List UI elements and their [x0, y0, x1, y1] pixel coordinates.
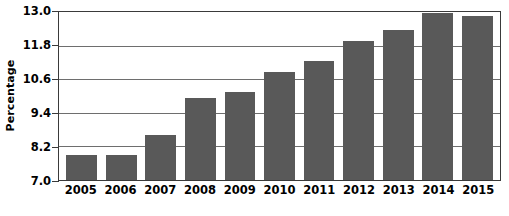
bar-slot	[181, 12, 221, 180]
bar	[185, 98, 216, 180]
y-axis-tick-label: 10.6	[23, 72, 51, 86]
x-axis-tick-label: 2013	[379, 183, 419, 197]
y-axis-tick-label: 13.0	[23, 4, 51, 18]
bar-slot	[339, 12, 379, 180]
bar	[106, 155, 137, 181]
x-axis-tick-labels: 2005200620072008200920102011201220132014…	[58, 183, 501, 205]
bar-slot	[220, 12, 260, 180]
x-axis-tick-label: 2006	[101, 183, 141, 197]
bar	[462, 16, 493, 180]
y-axis-tick-mark	[52, 181, 59, 182]
x-axis-tick-label: 2010	[260, 183, 300, 197]
bar-slot	[62, 12, 102, 180]
x-axis-tick-label: 2008	[180, 183, 220, 197]
bar-chart-figure: Percentage 13.011.810.69.48.27.0 2005200…	[0, 0, 509, 216]
x-axis-tick-label: 2005	[61, 183, 101, 197]
bar-slot	[260, 12, 300, 180]
y-axis-title-label: Percentage	[5, 59, 18, 131]
bar	[264, 72, 295, 180]
y-axis-tick-labels: 13.011.810.69.48.27.0	[22, 11, 56, 181]
x-axis-tick-label: 2015	[458, 183, 498, 197]
bar	[66, 155, 97, 181]
y-axis-title: Percentage	[0, 0, 22, 190]
plot-area	[58, 11, 501, 181]
bar	[225, 92, 256, 180]
x-axis-tick-label: 2012	[339, 183, 379, 197]
bar-slot	[141, 12, 181, 180]
x-axis-tick-label: 2009	[220, 183, 260, 197]
bar-slot	[102, 12, 142, 180]
bar	[304, 61, 335, 180]
figure-bottom-edge	[0, 214, 200, 216]
bar	[383, 30, 414, 180]
x-axis-tick-label: 2011	[299, 183, 339, 197]
x-axis-tick-label: 2007	[140, 183, 180, 197]
bar	[343, 41, 374, 180]
bar-slot	[299, 12, 339, 180]
bar	[145, 135, 176, 180]
x-axis-tick-label: 2014	[419, 183, 459, 197]
bar-slot	[418, 12, 458, 180]
y-axis-tick-label: 11.8	[23, 38, 51, 52]
y-axis-tick-label: 9.4	[31, 106, 51, 120]
y-axis-tick-label: 8.2	[31, 140, 51, 154]
bar-slot	[457, 12, 497, 180]
bar	[422, 13, 453, 180]
y-axis-tick-label: 7.0	[31, 174, 51, 188]
bars-layer	[59, 12, 500, 180]
bar-slot	[378, 12, 418, 180]
